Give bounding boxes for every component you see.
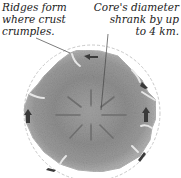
planet-diagram bbox=[0, 0, 181, 178]
ridges-leader-line bbox=[36, 38, 70, 53]
planet-core bbox=[81, 105, 101, 125]
arrow-icon bbox=[46, 168, 56, 172]
arrow-icon bbox=[26, 115, 30, 123]
arrow-icon bbox=[144, 113, 148, 122]
